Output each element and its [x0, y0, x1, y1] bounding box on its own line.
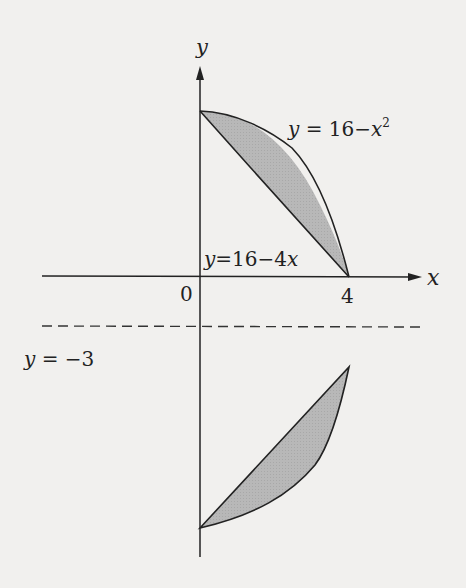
y-axis-label: y — [195, 35, 209, 59]
origin-label: 0 — [180, 282, 193, 306]
x-axis-arrow-icon — [408, 273, 422, 281]
line-label: y=16−4x — [203, 247, 298, 271]
x-axis — [42, 276, 416, 277]
diagram-canvas: y x 0 4 y = 16−x2 y=16−4x y = −3 — [0, 0, 466, 588]
axis-of-rotation-line — [42, 326, 420, 327]
y-axis-arrow-icon — [196, 66, 204, 80]
axis-of-rotation-label: y = −3 — [23, 347, 94, 371]
x-tick-label: 4 — [341, 284, 354, 308]
reflected-region — [200, 367, 349, 528]
diagram-svg: y x 0 4 y = 16−x2 y=16−4x y = −3 — [0, 0, 466, 588]
x-axis-label: x — [427, 265, 440, 290]
parabola-label: y = 16−x2 — [287, 116, 390, 141]
